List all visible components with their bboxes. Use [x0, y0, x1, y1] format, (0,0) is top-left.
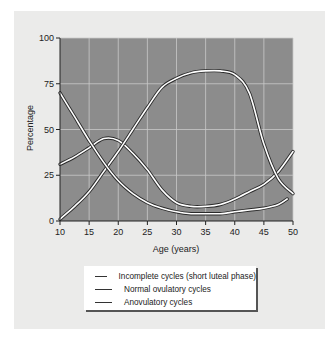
legend-item-normal-ovulatory: Normal ovulatory cycles [84, 283, 256, 295]
legend-label: Incomplete cycles (short luteal phase) [119, 272, 256, 281]
legend-label: Anovulatory cycles [124, 298, 192, 307]
y-tick-label: 50 [44, 125, 54, 135]
x-tick-label: 50 [288, 227, 298, 237]
legend-item-anovulatory: Anovulatory cycles [84, 296, 256, 308]
x-tick-label: 45 [259, 227, 269, 237]
legend-line-icon [95, 289, 112, 290]
legend-line-icon [95, 276, 107, 277]
x-tick-label: 20 [113, 227, 123, 237]
chart-legend: Incomplete cycles (short luteal phase) N… [84, 266, 256, 310]
legend-label: Normal ovulatory cycles [124, 285, 211, 294]
x-axis-label: Age (years) [153, 244, 200, 254]
y-tick-label: 75 [44, 79, 54, 89]
y-tick-label: 100 [39, 33, 54, 43]
x-tick-label: 35 [201, 227, 211, 237]
x-tick-label: 40 [230, 227, 240, 237]
y-tick-label: 0 [49, 216, 54, 226]
legend-item-incomplete: Incomplete cycles (short luteal phase) [84, 270, 256, 282]
x-tick-label: 15 [84, 227, 94, 237]
y-axis-label: Percentage [25, 105, 35, 151]
x-tick-label: 25 [142, 227, 152, 237]
x-tick-label: 10 [55, 227, 65, 237]
x-tick-label: 30 [171, 227, 181, 237]
legend-line-icon [95, 302, 112, 303]
y-tick-label: 25 [44, 170, 54, 180]
